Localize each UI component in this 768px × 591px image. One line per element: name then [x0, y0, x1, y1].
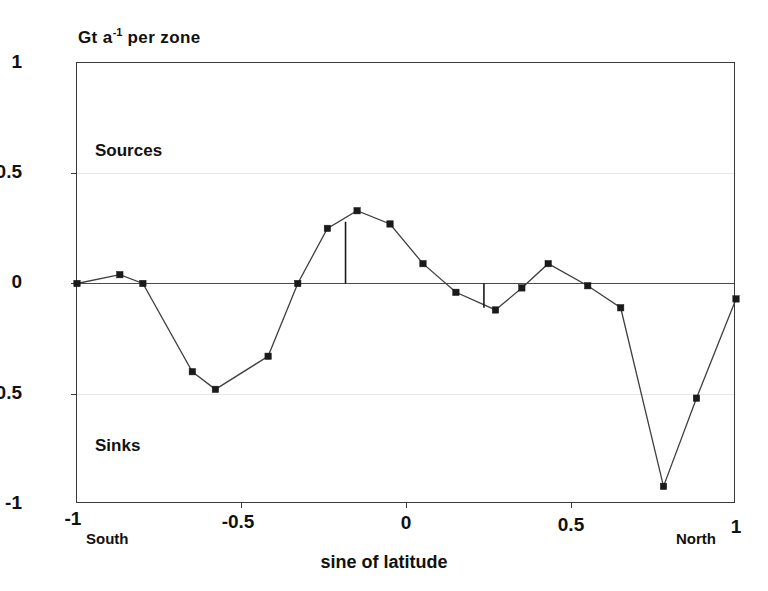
data-point [420, 260, 426, 266]
data-layer [77, 63, 736, 504]
x-tick-label-0: 0 [401, 512, 412, 534]
series-line-zonal-flux [77, 211, 736, 487]
data-point [117, 271, 123, 277]
y-tick-label-0: 0 [11, 271, 22, 293]
data-point [453, 289, 459, 295]
data-point [733, 296, 739, 302]
data-point [189, 369, 195, 375]
x-axis-label: sine of latitude [0, 552, 768, 573]
x-tick-label-m1: -1 [65, 508, 82, 530]
data-point [585, 283, 591, 289]
data-point [519, 285, 525, 291]
y-tick-label-m1: -1 [5, 492, 22, 514]
chart-title: Gt a-1 per zone [78, 26, 201, 48]
data-point [354, 208, 360, 214]
chart-figure: Gt a-1 per zone 1 0.5 0 -0.5 -1 -1 -0.5 … [0, 0, 768, 591]
x-tick-label-0_5: 0.5 [558, 514, 584, 536]
y-tick-label-1: 1 [11, 51, 22, 73]
x-tick-label-m0_5: -0.5 [222, 511, 255, 533]
chart-title-base-after: per zone [122, 28, 200, 47]
data-point [693, 395, 699, 401]
data-point [265, 353, 271, 359]
y-tick-label-0_5: 0.5 [0, 161, 22, 183]
annotation-south: South [86, 530, 129, 547]
chart-title-superscript: -1 [113, 26, 123, 38]
data-point [617, 305, 623, 311]
data-point [387, 221, 393, 227]
data-point [545, 260, 551, 266]
chart-title-base-before: Gt a [78, 28, 113, 47]
plot-area: Sources Sinks [76, 62, 735, 503]
data-point [140, 280, 146, 286]
x-tick-label-1: 1 [731, 516, 742, 538]
data-point [74, 280, 80, 286]
data-point [212, 386, 218, 392]
marker-group [74, 208, 739, 490]
data-point [492, 307, 498, 313]
data-point [295, 280, 301, 286]
data-point [660, 483, 666, 489]
data-point [324, 225, 330, 231]
y-tick-label-m0_5: -0.5 [0, 382, 22, 404]
annotation-north: North [676, 530, 716, 547]
